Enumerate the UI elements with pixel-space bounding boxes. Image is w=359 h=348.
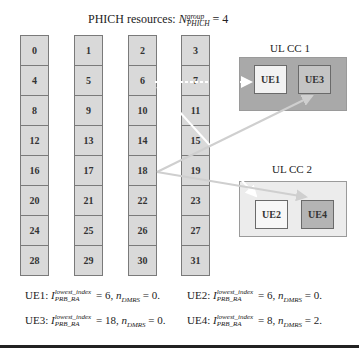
equation-ue3: UE3: Ilowest_indexPRB_RA = 18, nDMRS = 0… xyxy=(25,314,166,329)
equation-ue4: UE4: Ilowest_indexPRB_RA = 8, nDMRS = 2. xyxy=(187,314,322,329)
equation-ue1: UE1: Ilowest_indexPRB_RA = 6, nDMRS = 0. xyxy=(25,289,160,304)
equation-ue2: UE2: Ilowest_indexPRB_RA = 6, nDMRS = 0. xyxy=(187,289,322,304)
arrow-18-to-ue3 xyxy=(157,96,312,172)
arrow-18-to-ue4 xyxy=(157,172,306,197)
